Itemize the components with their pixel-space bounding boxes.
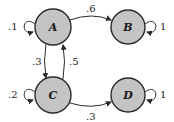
edge-a-to-c: .3 — [32, 44, 46, 78]
node-label-c: C — [49, 89, 58, 102]
edge-c-to-d: .3 — [70, 102, 111, 122]
edge-label-a-to-b: .6 — [86, 3, 96, 14]
self-loop-d: 1 — [145, 89, 166, 100]
edge-label-c-to-d: .3 — [86, 111, 96, 122]
state-diagram: .6 .3 .5 .3 .1 .2 1 1 A B — [0, 0, 174, 122]
edge-label-c-to-a: .5 — [69, 56, 79, 67]
node-c: C — [35, 77, 71, 113]
node-label-b: B — [122, 21, 132, 34]
self-loop-label-a: .1 — [8, 21, 18, 32]
self-loop-label-d: 1 — [160, 89, 166, 100]
edge-label-a-to-c: .3 — [32, 56, 42, 67]
node-label-a: A — [48, 21, 58, 34]
node-d: D — [111, 78, 145, 112]
self-loop-a: .1 — [8, 21, 35, 32]
node-a: A — [35, 9, 71, 45]
node-label-d: D — [122, 89, 133, 102]
self-loop-label-b: 1 — [160, 21, 166, 32]
edge-c-to-a: .5 — [63, 45, 79, 79]
self-loop-c: .2 — [8, 89, 35, 100]
self-loop-label-c: .2 — [8, 89, 18, 100]
node-b: B — [111, 10, 145, 44]
self-loop-b: 1 — [145, 21, 166, 32]
edge-a-to-b: .6 — [70, 3, 111, 20]
